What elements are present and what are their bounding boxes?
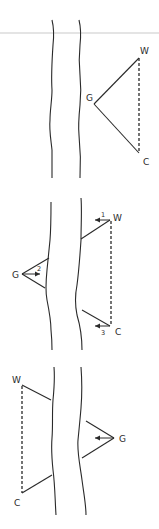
label-g: G: [119, 434, 126, 444]
line-g-to-bank-upper: [86, 421, 114, 438]
label-w: W: [140, 46, 149, 56]
panel-3: W C G: [12, 367, 126, 515]
line-g-to-bank-upper: [22, 258, 49, 274]
left-bank: [46, 202, 52, 350]
line-g-c: [94, 104, 139, 153]
label-c: C: [14, 498, 20, 508]
label-w: W: [12, 375, 21, 385]
line-c-to-bank: [82, 310, 110, 326]
label-w: W: [113, 213, 122, 223]
right-bank: [79, 20, 81, 178]
right-bank: [76, 198, 83, 350]
line-g-to-bank-lower: [82, 438, 114, 458]
label-g: G: [86, 93, 93, 103]
line-c-to-bank: [22, 475, 52, 493]
panel-2: 1 W 3 C 2 G: [12, 198, 122, 350]
arrow-number-2: 2: [37, 265, 41, 273]
label-c: C: [115, 327, 121, 337]
arrow-number-3: 3: [101, 329, 105, 337]
line-w-to-bank: [22, 385, 51, 400]
line-g-w: [94, 58, 139, 104]
label-c: C: [143, 157, 149, 167]
arrow-number-1: 1: [101, 211, 105, 219]
panel-1: W G C: [50, 20, 150, 178]
right-bank: [78, 367, 86, 515]
line-g-to-bank-lower: [22, 274, 45, 288]
left-bank: [52, 367, 56, 515]
river-triangulation-diagram: W G C 1 W 3 C 2 G W C: [0, 0, 159, 529]
line-w-to-bank: [81, 220, 110, 239]
label-g: G: [12, 270, 19, 280]
left-bank: [50, 20, 54, 178]
